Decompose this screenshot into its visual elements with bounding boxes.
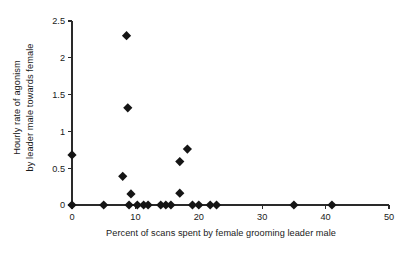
tick-marks-group <box>68 21 389 209</box>
data-point <box>118 172 127 181</box>
data-point <box>122 31 131 40</box>
y-tick-label-0: 0 <box>60 200 65 210</box>
x-tick-label-30: 30 <box>257 212 267 222</box>
x-tick-label-20: 20 <box>194 212 204 222</box>
x-tick-label-50: 50 <box>384 212 394 222</box>
data-point <box>194 200 203 209</box>
x-tick-label-10: 10 <box>130 212 140 222</box>
data-point <box>289 200 298 209</box>
data-point <box>166 200 175 209</box>
data-points-group <box>67 31 336 209</box>
y-tick-label-1.5: 1.5 <box>52 90 65 100</box>
data-point <box>126 189 135 198</box>
y-tick-label-2.5: 2.5 <box>52 16 65 26</box>
data-point <box>175 189 184 198</box>
data-point <box>99 200 108 209</box>
tick-labels-group: 0102030405000.511.522.5 <box>52 16 394 222</box>
y-tick-label-2: 2 <box>60 53 65 63</box>
data-point <box>212 200 221 209</box>
data-point <box>175 157 184 166</box>
scatter-plot-canvas: 0102030405000.511.522.5 <box>0 0 413 255</box>
data-point <box>67 200 76 209</box>
figure-root: Hourly rate of agonism by leader male to… <box>0 0 413 255</box>
data-point <box>123 103 132 112</box>
y-tick-label-0.5: 0.5 <box>52 164 65 174</box>
data-point <box>67 150 76 159</box>
y-tick-label-1: 1 <box>60 127 65 137</box>
data-point <box>327 200 336 209</box>
data-point <box>183 144 192 153</box>
data-point <box>124 200 133 209</box>
x-tick-label-40: 40 <box>320 212 330 222</box>
x-tick-label-0: 0 <box>69 212 74 222</box>
